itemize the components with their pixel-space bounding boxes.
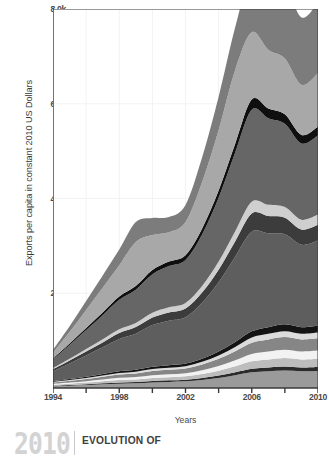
- footer-title: EVOLUTION OF: [82, 434, 161, 446]
- footer-year: 2010: [14, 428, 70, 458]
- plot-area: [53, 9, 318, 388]
- chart-figure: Exports per capita in constant 2010 US D…: [0, 0, 329, 458]
- stacked-area-svg: [53, 9, 318, 394]
- footer-bar: 2010 EVOLUTION OF: [0, 428, 329, 458]
- x-axis-title: Years: [53, 415, 318, 425]
- footer-divider: [74, 431, 75, 455]
- y-axis-title: Exports per capita in constant 2010 US D…: [24, 48, 34, 298]
